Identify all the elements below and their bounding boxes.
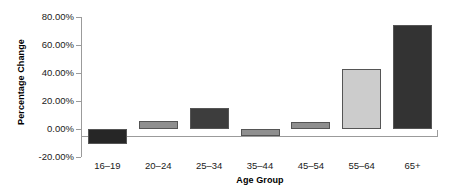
x-axis-tick-label: 35–44	[235, 160, 286, 171]
y-axis-tick-mark	[76, 45, 81, 46]
bar-55-64	[342, 69, 381, 129]
y-axis-tick-label: 0.00%	[12, 123, 74, 134]
bar-25-34	[190, 108, 229, 129]
y-axis-tick-mark	[76, 101, 81, 102]
y-axis-tick-mark	[76, 129, 81, 130]
y-axis-tick-mark	[76, 157, 81, 158]
y-axis-tick-label: 20.00%	[12, 95, 74, 106]
y-axis-tick-mark	[76, 17, 81, 18]
bar-45-54	[291, 122, 330, 129]
x-axis-tick-label: 55–64	[336, 160, 387, 171]
bar-16-19	[88, 129, 127, 144]
bar-65+	[393, 25, 432, 129]
percentage-change-bar-chart: Percentage Change -20.00%0.00%20.00%40.0…	[0, 0, 461, 189]
x-axis-tick-label: 16–19	[82, 160, 133, 171]
y-axis-tick-label: -20.00%	[12, 151, 74, 162]
y-axis-tick-label: 80.00%	[12, 11, 74, 22]
y-axis-tick-label: 40.00%	[12, 67, 74, 78]
x-axis-tick-label: 65+	[387, 160, 438, 171]
x-axis-tick-label: 25–34	[184, 160, 235, 171]
bar-20-24	[139, 121, 178, 129]
x-axis-title: Age Group	[82, 175, 438, 185]
y-axis-tick-mark	[76, 73, 81, 74]
x-axis-tick-labels: 16–1920–2425–3435–4445–5455–6465+	[82, 160, 438, 174]
y-axis-tick-label: 60.00%	[12, 39, 74, 50]
x-axis-tick-label: 45–54	[285, 160, 336, 171]
bar-35-44	[241, 129, 280, 136]
y-axis-tick-labels: -20.00%0.00%20.00%40.00%60.00%80.00%	[12, 0, 74, 189]
x-axis-tick-label: 20–24	[133, 160, 184, 171]
plot-area	[82, 17, 438, 157]
